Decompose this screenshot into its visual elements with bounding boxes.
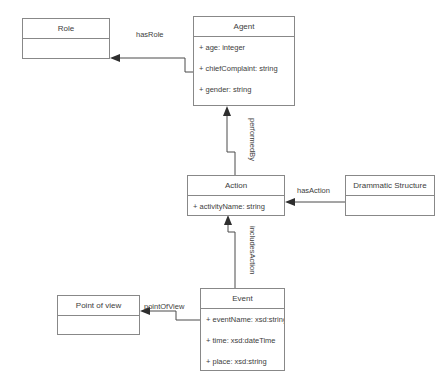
class-box-role[interactable]: Role (22, 18, 110, 59)
class-attribute: + time: xsd:dateTime (201, 330, 284, 351)
class-name-drammatic-structure: Drammatic Structure (346, 176, 434, 196)
association-label-includes-action: includesAction (248, 226, 257, 274)
class-attributes-drammatic-structure (346, 196, 434, 216)
uml-class-diagram: Role Agent + age: integer + chiefComplai… (0, 0, 441, 390)
association-label-point-of-view: pointOfView (144, 302, 184, 311)
arrowhead-performed-by (223, 106, 231, 116)
connector-performed-by (227, 116, 235, 175)
class-box-action[interactable]: Action + activityName: string (187, 175, 285, 216)
class-attributes-role (23, 39, 109, 59)
connector-point-of-view (148, 311, 200, 320)
class-name-point-of-view: Point of view (58, 296, 139, 316)
association-label-has-action: hasAction (297, 186, 330, 195)
class-attribute: + chiefComplaint: string (194, 58, 294, 79)
class-attribute: + eventName: xsd:string (201, 309, 284, 330)
class-box-drammatic-structure[interactable]: Drammatic Structure (345, 175, 435, 216)
class-attributes-event: + eventName: xsd:string + time: xsd:date… (201, 309, 284, 372)
class-box-event[interactable]: Event + eventName: xsd:string + time: xs… (200, 288, 285, 371)
arrowhead-has-action (285, 198, 295, 206)
class-box-point-of-view[interactable]: Point of view (57, 295, 140, 335)
class-attributes-action: + activityName: string (188, 196, 284, 217)
arrowhead-has-role (110, 54, 120, 62)
class-name-role: Role (23, 19, 109, 39)
class-attribute: + age: integer (194, 37, 294, 58)
class-name-agent: Agent (194, 17, 294, 37)
class-attributes-agent: + age: integer + chiefComplaint: string … (194, 37, 294, 100)
class-attribute: + place: xsd:string (201, 351, 284, 372)
class-attributes-point-of-view (58, 316, 139, 336)
class-name-event: Event (201, 289, 284, 309)
connector-includes-action (228, 225, 235, 288)
class-attribute: + gender: string (194, 79, 294, 100)
connector-has-role (118, 58, 193, 72)
association-label-has-role: hasRole (136, 30, 164, 39)
association-label-performed-by: performedBy (248, 118, 257, 161)
class-box-agent[interactable]: Agent + age: integer + chiefComplaint: s… (193, 16, 295, 106)
class-attribute: + activityName: string (188, 196, 284, 217)
class-name-action: Action (188, 176, 284, 196)
